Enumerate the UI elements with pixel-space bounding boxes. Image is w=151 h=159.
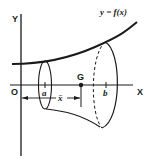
arrowhead-left-icon (22, 96, 28, 100)
solid-of-revolution-diagram: Y X O y = f(x) a b G x̄ (0, 0, 151, 159)
lower-surface-edge (46, 109, 100, 127)
curve-y-equals-f-x (12, 22, 137, 64)
b-label: b (103, 88, 108, 98)
x-axis-label: X (137, 87, 143, 97)
x-bar-label: x̄ (57, 93, 63, 103)
a-label: a (42, 88, 47, 98)
arrowhead-right-icon (74, 96, 80, 100)
origin-label: O (11, 87, 18, 97)
centroid-label: G (77, 72, 84, 82)
curve-label: y = f(x) (99, 7, 127, 17)
y-axis-label: Y (12, 14, 18, 24)
